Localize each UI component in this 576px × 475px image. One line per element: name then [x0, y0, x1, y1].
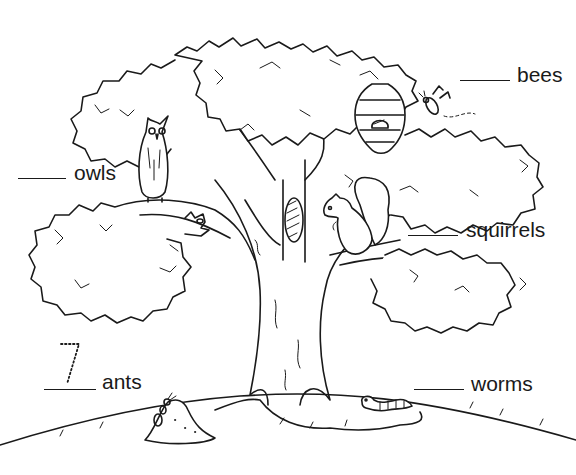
tree-hollow-icon	[285, 198, 303, 242]
squirrel-icon	[324, 177, 389, 254]
owls-label: owls	[74, 162, 116, 183]
canopy-right-lower	[371, 249, 526, 333]
dotted-seven-trace	[55, 340, 85, 390]
worms-label: worms	[471, 373, 533, 394]
ground	[0, 394, 576, 445]
worms-answer-blank[interactable]	[414, 389, 464, 390]
canopy-left-lower	[29, 203, 191, 323]
squirrels-label: squirrels	[466, 219, 545, 240]
owls-answer-blank[interactable]	[18, 178, 66, 179]
beehive-icon	[355, 84, 405, 153]
bees-answer-blank[interactable]	[460, 80, 510, 81]
squirrels-answer-blank[interactable]	[408, 235, 458, 236]
branch-knot	[185, 212, 209, 236]
bees-label: bees	[517, 64, 563, 85]
bee-icon	[419, 86, 475, 117]
ants-label: ants	[102, 371, 142, 392]
